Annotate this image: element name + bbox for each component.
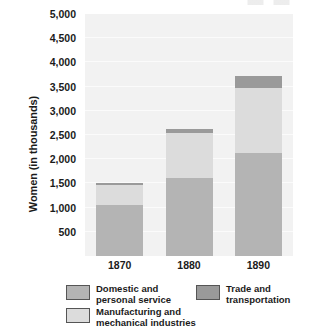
legend-swatch (66, 285, 90, 300)
legend-item[interactable]: Trade and transportation (196, 284, 290, 305)
gridline (85, 37, 293, 38)
cropped-header-artifact (243, 0, 305, 5)
bar-segment (166, 133, 213, 178)
gridline (85, 61, 293, 62)
chart-screenshot: Women (in thousands) 5001,0001,5002,0002… (0, 0, 310, 332)
y-axis-tick-label: 5,000 (22, 8, 76, 20)
bar-1870 (96, 183, 143, 256)
legend-item[interactable]: Manufacturing and mechanical industries (66, 307, 196, 328)
x-axis-tick-label: 1880 (159, 259, 219, 271)
legend-swatch (66, 308, 90, 323)
y-axis-tick-label: 3,000 (22, 105, 76, 117)
bar-segment (235, 76, 282, 88)
y-axis-tick-label: 4,500 (22, 32, 76, 44)
bar-segment (235, 88, 282, 154)
bar-segment (96, 185, 143, 205)
bar-1880 (166, 129, 213, 256)
y-axis-tick-label: 4,000 (22, 56, 76, 68)
legend-label: Trade and transportation (226, 284, 290, 305)
chart-legend: Domestic and personal serviceTrade and t… (66, 284, 306, 330)
bar-1890 (235, 76, 282, 256)
bar-segment (96, 183, 143, 184)
legend-label: Manufacturing and mechanical industries (96, 307, 196, 328)
y-axis-tick-label: 3,500 (22, 81, 76, 93)
y-axis-tick-label: 1,000 (22, 202, 76, 214)
plot-area (85, 14, 293, 256)
y-axis-tick-label: 2,500 (22, 129, 76, 141)
legend-item[interactable]: Domestic and personal service (66, 284, 171, 305)
x-axis-tick-labels: 187018801890 (85, 259, 293, 275)
y-axis-tick-label: 2,000 (22, 153, 76, 165)
legend-swatch (196, 285, 220, 300)
y-axis-tick-labels: 5001,0001,5002,0002,5003,0003,5004,0004,… (22, 0, 76, 270)
x-axis-tick-label: 1890 (228, 259, 288, 271)
bar-segment (235, 153, 282, 256)
bar-segment (166, 129, 213, 133)
x-axis-tick-label: 1870 (90, 259, 150, 271)
bar-segment (166, 178, 213, 256)
bar-segment (96, 205, 143, 256)
y-axis-tick-label: 1,500 (22, 177, 76, 189)
legend-label: Domestic and personal service (96, 284, 171, 305)
y-axis-tick-label: 500 (22, 226, 76, 238)
